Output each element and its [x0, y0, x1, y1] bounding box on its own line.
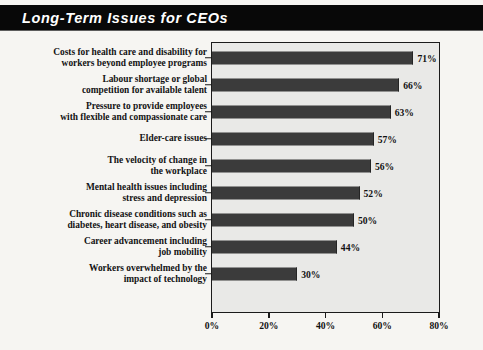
category-tick	[205, 111, 211, 113]
category-label: The velocity of change in the workplace	[7, 154, 207, 176]
category-label: Chronic disease conditions such as diabe…	[7, 208, 207, 230]
bar	[212, 186, 360, 199]
x-axis-tick	[438, 313, 440, 318]
x-axis-tick	[325, 313, 327, 318]
bar	[212, 240, 337, 253]
bar-value-label: 50%	[358, 214, 377, 225]
x-axis-tick	[268, 313, 270, 318]
bar-value-label: 30%	[301, 268, 320, 279]
x-axis: 0%20%40%60%80%	[0, 313, 483, 343]
category-tick	[205, 273, 211, 275]
x-axis-tick	[211, 313, 213, 318]
category-label: Costs for health care and disability for…	[7, 46, 207, 68]
category-tick	[205, 246, 211, 248]
x-axis-tick-label: 80%	[429, 320, 448, 331]
bar	[212, 132, 374, 145]
bar	[212, 267, 297, 280]
table-row: Elder-care issues57%	[0, 125, 483, 152]
table-row: Career advancement including job mobilit…	[0, 233, 483, 260]
bar-rows: Costs for health care and disability for…	[0, 42, 483, 313]
bar-value-label: 71%	[417, 52, 436, 63]
category-tick	[205, 84, 211, 86]
bar-value-label: 44%	[341, 241, 360, 252]
bar	[212, 78, 399, 91]
x-axis-tick	[382, 313, 384, 318]
category-label: Labour shortage or global competition fo…	[7, 73, 207, 95]
table-row: The velocity of change in the workplace5…	[0, 152, 483, 179]
x-axis-tick-label: 0%	[205, 320, 219, 331]
bar-value-label: 57%	[378, 133, 397, 144]
bar-value-label: 66%	[403, 79, 422, 90]
category-label: Elder-care issues	[7, 133, 207, 144]
table-row: Pressure to provide employees with flexi…	[0, 98, 483, 125]
bar-value-label: 56%	[375, 160, 394, 171]
category-tick	[205, 165, 211, 167]
table-row: Costs for health care and disability for…	[0, 44, 483, 71]
x-axis-tick-label: 60%	[373, 320, 392, 331]
category-tick	[205, 219, 211, 221]
bar	[212, 51, 413, 64]
category-label: Workers overwhelmed by the impact of tec…	[7, 262, 207, 284]
bar-value-label: 63%	[395, 106, 414, 117]
category-label: Mental health issues including stress an…	[7, 181, 207, 203]
category-label: Career advancement including job mobilit…	[7, 235, 207, 257]
category-tick	[205, 138, 211, 140]
table-row: Mental health issues including stress an…	[0, 179, 483, 206]
bar-value-label: 52%	[364, 187, 383, 198]
category-label: Pressure to provide employees with flexi…	[7, 100, 207, 122]
bar	[212, 105, 391, 118]
table-row: Workers overwhelmed by the impact of tec…	[0, 260, 483, 287]
page-title: Long-Term Issues for CEOs	[22, 10, 228, 26]
category-tick	[205, 57, 211, 59]
bar	[212, 159, 371, 172]
x-axis-tick-label: 40%	[316, 320, 335, 331]
table-row: Labour shortage or global competition fo…	[0, 71, 483, 98]
bar	[212, 213, 354, 226]
bar-chart: Costs for health care and disability for…	[0, 30, 483, 350]
x-axis-tick-label: 20%	[259, 320, 278, 331]
category-tick	[205, 192, 211, 194]
title-banner: Long-Term Issues for CEOs	[0, 5, 483, 30]
table-row: Chronic disease conditions such as diabe…	[0, 206, 483, 233]
